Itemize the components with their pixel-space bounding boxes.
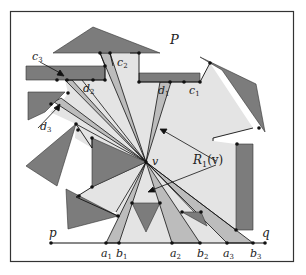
label-q: q [262,226,270,240]
obstacle-right-tall-rect [236,144,253,230]
visibility-diagram: P v R1(v) p q a1 b1 a2 b2 a3 b3 c1 d1 c2… [0,0,306,275]
label-p: p [49,226,57,240]
obstacle-left-bar [26,66,105,80]
label-R1v: R1(v) [192,153,223,169]
label-P: P [169,32,179,47]
label-v: v [152,155,159,168]
